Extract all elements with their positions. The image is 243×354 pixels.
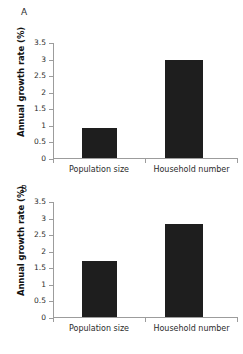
y-tick-b-3: 3 xyxy=(49,219,53,220)
x-tick-a-right xyxy=(237,159,238,163)
x-tick-a-left xyxy=(53,159,54,163)
y-tick-label-a-2: 2.5 xyxy=(34,71,46,80)
y-axis-title-a: Annual growth rate (%) xyxy=(16,20,26,144)
panel-letter-a: A xyxy=(21,7,27,18)
x-tick-b-mid xyxy=(145,318,146,322)
y-tick-label-b-7: 0 xyxy=(41,313,46,322)
y-tick-b-3_5: 3.5 xyxy=(49,202,53,203)
plot-area-b: 3.5 3 2.5 2 1.5 1 0.5 0 xyxy=(53,202,238,318)
y-tick-a-3_5: 3.5 xyxy=(49,43,53,44)
y-tick-label-b-3: 2 xyxy=(41,247,46,256)
x-tick-a-mid xyxy=(145,159,146,163)
y-tick-label-a-0: 3.5 xyxy=(34,38,46,47)
y-axis-line-b xyxy=(53,202,54,318)
y-tick-label-a-5: 1 xyxy=(41,121,46,130)
bar-a-population-size xyxy=(82,128,117,158)
y-tick-b-0_5: 0.5 xyxy=(49,301,53,302)
y-tick-label-b-2: 2.5 xyxy=(34,230,46,239)
y-tick-a-1: 1 xyxy=(49,126,53,127)
panel-b: B Annual growth rate (%) 3.5 3 2.5 2 1.5… xyxy=(0,177,243,354)
bar-b-population-size xyxy=(82,261,117,317)
bar-b-household-number xyxy=(165,224,203,317)
x-axis-label-b-household-number: Household number xyxy=(145,324,238,334)
y-tick-label-a-1: 3 xyxy=(41,55,46,64)
y-tick-label-b-5: 1 xyxy=(41,280,46,289)
y-tick-label-b-0: 3.5 xyxy=(34,197,46,206)
panel-a: A Annual growth rate (%) 3.5 3 2.5 2 1.5… xyxy=(0,0,243,177)
x-axis-label-a-population-size: Population size xyxy=(53,165,145,175)
x-axis-label-a-household-number: Household number xyxy=(145,165,238,175)
y-axis-line-a xyxy=(53,43,54,159)
y-tick-a-3: 3 xyxy=(49,60,53,61)
y-tick-a-2: 2 xyxy=(49,93,53,94)
y-tick-b-1: 1 xyxy=(49,285,53,286)
y-tick-label-b-4: 1.5 xyxy=(34,263,46,272)
y-tick-label-b-6: 0.5 xyxy=(34,296,46,305)
y-tick-label-a-6: 0.5 xyxy=(34,137,46,146)
y-tick-b-2: 2 xyxy=(49,252,53,253)
y-tick-a-1_5: 1.5 xyxy=(49,109,53,110)
y-tick-label-a-3: 2 xyxy=(41,88,46,97)
x-tick-b-right xyxy=(237,318,238,322)
y-tick-label-b-1: 3 xyxy=(41,214,46,223)
x-tick-b-left xyxy=(53,318,54,322)
y-tick-a-2_5: 2.5 xyxy=(49,76,53,77)
x-axis-label-b-population-size: Population size xyxy=(53,324,145,334)
y-tick-label-a-4: 1.5 xyxy=(34,104,46,113)
y-tick-label-a-7: 0 xyxy=(41,154,46,163)
y-tick-b-2_5: 2.5 xyxy=(49,235,53,236)
plot-area-a: 3.5 3 2.5 2 1.5 1 0.5 0 xyxy=(53,43,238,159)
y-tick-b-1_5: 1.5 xyxy=(49,268,53,269)
figure-container: A Annual growth rate (%) 3.5 3 2.5 2 1.5… xyxy=(0,0,243,354)
y-tick-a-0_5: 0.5 xyxy=(49,142,53,143)
bar-a-household-number xyxy=(165,60,203,158)
y-axis-title-b: Annual growth rate (%) xyxy=(16,179,26,303)
